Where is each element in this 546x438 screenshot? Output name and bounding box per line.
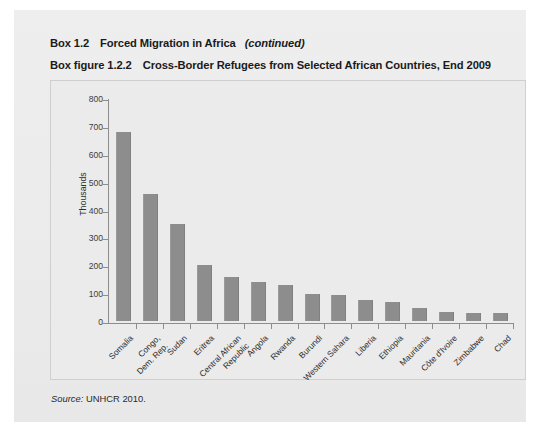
bar bbox=[305, 294, 320, 321]
figure-title: Cross-Border Refugees from Selected Afri… bbox=[143, 59, 491, 71]
x-tick-mark bbox=[324, 324, 325, 329]
figure-tag: Box figure 1.2.2 bbox=[50, 59, 132, 71]
page-canvas: Box 1.2Forced Migration in Africa(contin… bbox=[0, 0, 546, 438]
x-tick-mark bbox=[163, 324, 164, 329]
y-axis-line bbox=[108, 99, 109, 324]
box-heading: Box 1.2Forced Migration in Africa(contin… bbox=[50, 37, 305, 49]
bar bbox=[358, 300, 373, 321]
figure-heading: Box figure 1.2.2Cross-Border Refugees fr… bbox=[50, 59, 491, 71]
y-tick-label: 700 bbox=[89, 122, 103, 132]
bar bbox=[143, 194, 158, 321]
y-axis-title: Thousands bbox=[78, 154, 88, 234]
x-tick-mark bbox=[378, 324, 379, 329]
y-tick-mark bbox=[102, 184, 108, 185]
bar bbox=[170, 224, 185, 321]
box-continued-note: (continued) bbox=[245, 37, 305, 49]
source-label: Source: bbox=[51, 393, 83, 404]
x-tick-mark bbox=[244, 324, 245, 329]
y-tick-mark bbox=[102, 100, 108, 101]
x-tick-mark bbox=[351, 324, 352, 329]
y-tick-label: 400 bbox=[89, 206, 103, 216]
bar bbox=[251, 282, 266, 321]
chart-frame: Thousands 0100200300400500600700800 Soma… bbox=[50, 80, 526, 380]
bar bbox=[412, 308, 427, 321]
x-tick-mark bbox=[513, 324, 514, 329]
bar bbox=[224, 277, 239, 321]
box-title: Forced Migration in Africa bbox=[100, 37, 236, 49]
source-note: Source: UNHCR 2010. bbox=[51, 393, 146, 404]
box-tag: Box 1.2 bbox=[50, 37, 89, 49]
y-tick-label: 500 bbox=[89, 178, 103, 188]
bar bbox=[493, 313, 508, 321]
y-tick-mark bbox=[102, 267, 108, 268]
y-tick-mark bbox=[102, 128, 108, 129]
x-tick-mark bbox=[217, 324, 218, 329]
y-tick-mark bbox=[102, 156, 108, 157]
y-tick-mark bbox=[102, 239, 108, 240]
bar bbox=[197, 265, 212, 321]
bar bbox=[466, 313, 481, 321]
x-tick-mark bbox=[136, 324, 137, 329]
y-tick-mark bbox=[102, 323, 108, 324]
y-tick-mark bbox=[102, 295, 108, 296]
x-tick-mark bbox=[271, 324, 272, 329]
y-tick-mark bbox=[102, 212, 108, 213]
y-tick-label: 0 bbox=[98, 317, 103, 327]
bar bbox=[278, 285, 293, 321]
x-tick-mark bbox=[432, 324, 433, 329]
x-tick-mark bbox=[405, 324, 406, 329]
y-tick-label: 600 bbox=[89, 150, 103, 160]
x-tick-mark bbox=[486, 324, 487, 329]
y-tick-label: 800 bbox=[89, 94, 103, 104]
y-tick-label: 300 bbox=[89, 233, 103, 243]
box-panel: Box 1.2Forced Migration in Africa(contin… bbox=[14, 10, 526, 422]
x-axis-line bbox=[108, 323, 514, 324]
bar bbox=[331, 295, 346, 321]
y-tick-label: 100 bbox=[89, 289, 103, 299]
y-tick-label: 200 bbox=[89, 261, 103, 271]
source-text: UNHCR 2010. bbox=[86, 393, 146, 404]
x-tick-mark bbox=[459, 324, 460, 329]
bar bbox=[385, 302, 400, 321]
x-tick-mark bbox=[190, 324, 191, 329]
bar bbox=[439, 312, 454, 321]
bar bbox=[116, 132, 131, 321]
x-tick-mark bbox=[298, 324, 299, 329]
